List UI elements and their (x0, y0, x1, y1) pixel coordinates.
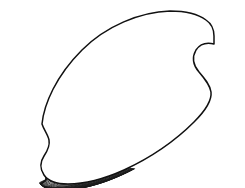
shell-illustration-figure: bivalve shell valve (0, 0, 245, 188)
shell-drawing-canvas (0, 0, 245, 188)
